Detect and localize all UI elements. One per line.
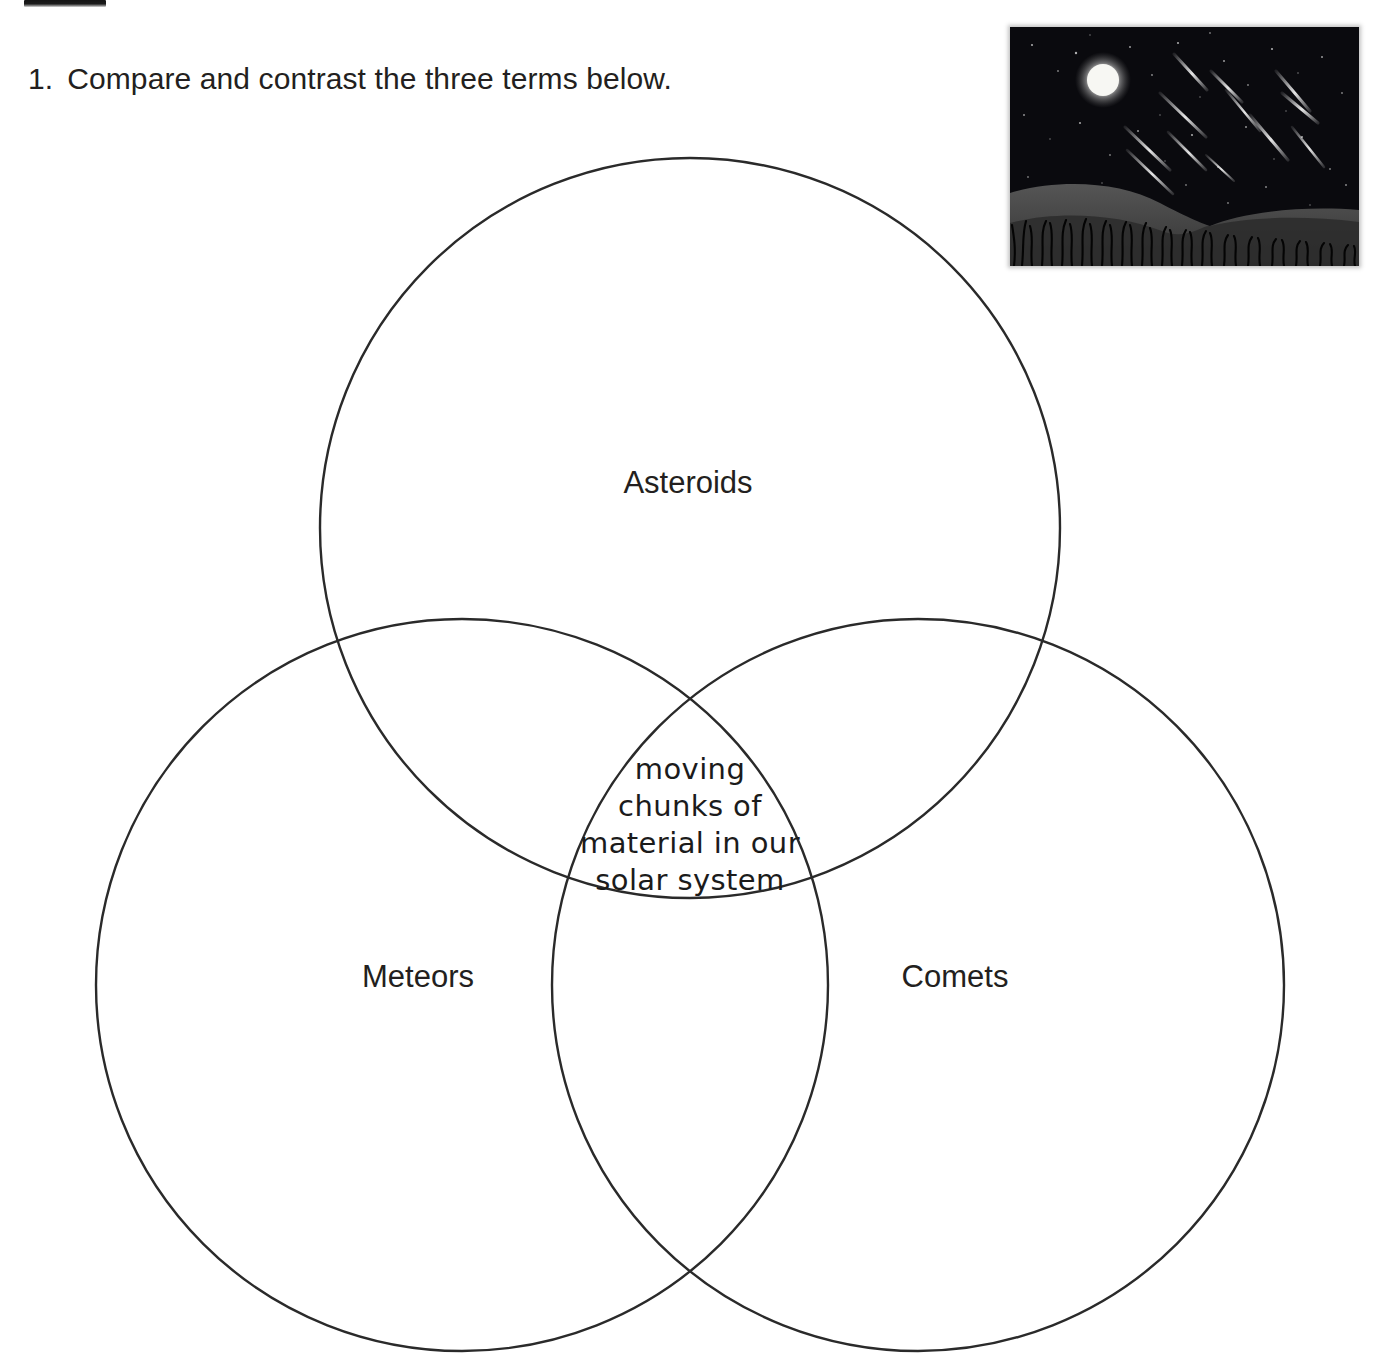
answer-line-4: solar system [525, 862, 855, 899]
venn-center-answer[interactable]: moving chunks of material in our solar s… [525, 751, 855, 899]
venn-label-meteors: Meteors [362, 959, 474, 995]
answer-line-2: chunks of [525, 788, 855, 825]
venn-diagram [0, 0, 1373, 1372]
venn-label-comets: Comets [902, 959, 1009, 995]
worksheet-page: 1.Compare and contrast the three terms b… [0, 0, 1373, 1372]
answer-line-1: moving [525, 751, 855, 788]
answer-line-3: material in our [525, 825, 855, 862]
venn-label-asteroids: Asteroids [623, 465, 752, 501]
